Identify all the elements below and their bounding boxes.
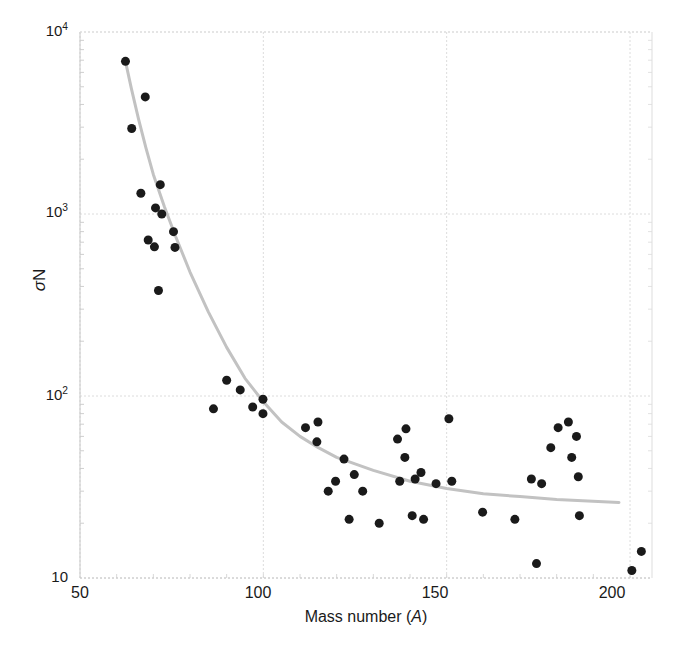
ytick-label-1000: 103 xyxy=(18,203,68,220)
data-points xyxy=(121,57,646,575)
xtick-label-100: 100 xyxy=(233,584,283,602)
grid-lines xyxy=(80,32,652,578)
ytick-label-100: 102 xyxy=(18,386,68,403)
minor-tick-marks xyxy=(80,40,652,578)
ytick-label-10: 10 xyxy=(18,568,68,585)
xtick-label-200: 200 xyxy=(587,584,637,602)
x-axis-title: Mass number (A) xyxy=(80,608,652,626)
ytick-label-10000: 104 xyxy=(18,22,68,39)
fit-curve xyxy=(125,61,619,502)
y-axis-title: σN xyxy=(30,250,50,310)
xtick-label-50: 50 xyxy=(55,584,105,602)
chart-figure: 104 103 102 10 50 100 150 200 σN Mass nu… xyxy=(0,0,673,645)
xtick-label-150: 150 xyxy=(410,584,460,602)
axis-lines xyxy=(80,32,652,578)
scatter-plot-canvas xyxy=(0,0,673,645)
